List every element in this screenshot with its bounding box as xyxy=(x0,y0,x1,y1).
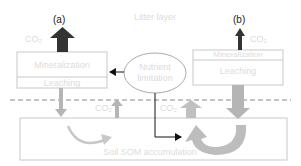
litter-layer-title: Litter layer xyxy=(120,12,190,22)
panel-b-mineralization: Mineralization xyxy=(193,50,283,59)
co2-arrow-a-icon xyxy=(50,27,75,52)
panel-a-label: (a) xyxy=(53,14,65,25)
panel-a-leaching: Leaching xyxy=(17,78,107,88)
co2-arrow-b-icon xyxy=(235,28,245,50)
diagram: Litter layer (a) CO₂ Mineralization Leac… xyxy=(0,0,301,166)
panel-a-mineralization: Mineralization xyxy=(17,60,107,70)
soil-co2-left-label: CO₂ xyxy=(95,103,112,113)
ellipse-text-line2: limitation xyxy=(124,73,186,83)
soil-co2-right-label: CO₂ xyxy=(160,103,177,113)
panel-b-label: (b) xyxy=(233,14,245,25)
panel-a-co2-label: CO₂ xyxy=(25,34,42,44)
panel-b-co2-label: CO₂ xyxy=(250,34,267,44)
leaching-arrow-b-icon xyxy=(226,85,250,119)
ellipse-text-line1: Nutrient xyxy=(124,62,186,72)
soil-co2-arrow-b-icon xyxy=(180,100,202,118)
soil-accumulation-label: Soil SOM accumulation xyxy=(90,147,210,157)
soil-co2-arrow-a-icon xyxy=(111,99,123,118)
leaching-arrow-a-icon xyxy=(55,88,67,117)
panel-b-leaching: Leaching xyxy=(193,66,283,76)
